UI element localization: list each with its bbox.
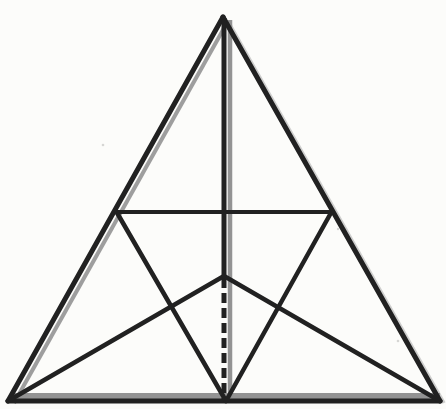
paper-speck — [337, 228, 339, 230]
paper-speck — [102, 144, 105, 147]
geometry-figure — [0, 0, 446, 409]
triangle-median-diagram — [0, 0, 446, 409]
paper-speck — [397, 340, 400, 343]
